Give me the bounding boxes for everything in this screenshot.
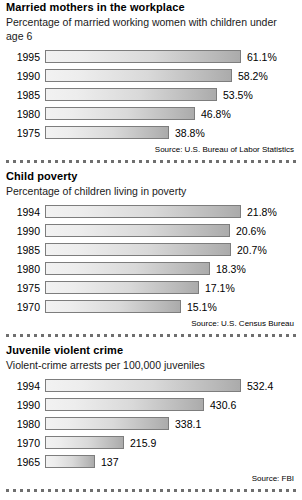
bar-value-label: 21.8% — [241, 205, 277, 219]
bar — [45, 69, 232, 82]
category-label: 1990 — [6, 398, 45, 412]
source-label: Source: U.S. Census Bureau — [6, 318, 296, 329]
source-label: Source: FBI — [6, 473, 296, 484]
category-label: 1970 — [6, 436, 45, 450]
bar-track: 38.8% — [45, 123, 296, 142]
bar-value-label: 61.1% — [241, 50, 277, 64]
bar-track: 20.7% — [45, 240, 296, 259]
bar-track: 215.9 — [45, 433, 296, 452]
bar — [45, 88, 217, 101]
section-child-poverty: Child poverty Percentage of children liv… — [6, 169, 296, 329]
bar-value-label: 18.3% — [210, 262, 246, 276]
category-label: 1980 — [6, 262, 45, 276]
bar — [45, 436, 124, 449]
bar-track: 17.1% — [45, 278, 296, 297]
chart-row: 197015.1% — [6, 297, 296, 316]
bar-track: 18.3% — [45, 259, 296, 278]
chart-row: 1994532.4 — [6, 376, 296, 395]
bar — [45, 379, 241, 392]
chart-row: 198046.8% — [6, 104, 296, 123]
bar-value-label: 338.1 — [169, 417, 201, 431]
infographic-page: Married mothers in the workplace Percent… — [0, 0, 302, 500]
chart-row: 1965137 — [6, 452, 296, 471]
chart-row: 199421.8% — [6, 202, 296, 221]
section-juvenile-crime: Juvenile violent crime Violent-crime arr… — [6, 343, 296, 484]
bar-track: 15.1% — [45, 297, 296, 316]
bar-value-label: 17.1% — [199, 281, 235, 295]
bottom-divider — [6, 489, 296, 492]
page-title: Child poverty — [6, 169, 296, 183]
bar — [45, 455, 95, 468]
chart-row: 1970215.9 — [6, 433, 296, 452]
category-label: 1975 — [6, 126, 45, 140]
bar — [45, 224, 230, 237]
bar — [45, 300, 181, 313]
bar-value-label: 20.7% — [231, 243, 267, 257]
bar — [45, 107, 195, 120]
category-label: 1980 — [6, 417, 45, 431]
bar-value-label: 53.5% — [217, 88, 253, 102]
bar — [45, 417, 169, 430]
chart-row: 198018.3% — [6, 259, 296, 278]
category-label: 1985 — [6, 243, 45, 257]
category-label: 1980 — [6, 107, 45, 121]
category-label: 1970 — [6, 300, 45, 314]
category-label: 1985 — [6, 88, 45, 102]
chart-row: 199561.1% — [6, 47, 296, 66]
category-label: 1990 — [6, 69, 45, 83]
bar-track: 20.6% — [45, 221, 296, 240]
bar-value-label: 46.8% — [195, 107, 231, 121]
bar — [45, 126, 169, 139]
section-married-mothers: Married mothers in the workplace Percent… — [6, 0, 296, 155]
bar-value-label: 38.8% — [169, 126, 205, 140]
category-label: 1965 — [6, 455, 45, 469]
bar-track: 338.1 — [45, 414, 296, 433]
section-subtitle: Percentage of married working women with… — [6, 15, 296, 43]
category-label: 1994 — [6, 205, 45, 219]
bar — [45, 398, 204, 411]
category-label: 1990 — [6, 224, 45, 238]
page-title: Juvenile violent crime — [6, 343, 296, 357]
category-label: 1975 — [6, 281, 45, 295]
chart-row: 198553.5% — [6, 85, 296, 104]
bar-track: 532.4 — [45, 376, 296, 395]
bar-value-label: 15.1% — [181, 300, 217, 314]
section-divider — [6, 160, 296, 163]
bar-value-label: 58.2% — [232, 69, 268, 83]
bar-track: 21.8% — [45, 202, 296, 221]
bar-track: 46.8% — [45, 104, 296, 123]
bar — [45, 243, 231, 256]
bar-value-label: 215.9 — [124, 436, 156, 450]
chart-row: 1990430.6 — [6, 395, 296, 414]
chart-row: 1980338.1 — [6, 414, 296, 433]
bar-value-label: 20.6% — [230, 224, 266, 238]
bar-track: 430.6 — [45, 395, 296, 414]
chart-row: 199020.6% — [6, 221, 296, 240]
bar-track: 53.5% — [45, 85, 296, 104]
chart-row: 199058.2% — [6, 66, 296, 85]
bar-track: 58.2% — [45, 66, 296, 85]
chart-row: 197517.1% — [6, 278, 296, 297]
category-label: 1995 — [6, 50, 45, 64]
chart-row: 198520.7% — [6, 240, 296, 259]
bar-value-label: 430.6 — [204, 398, 236, 412]
bar — [45, 262, 210, 275]
chart-row: 197538.8% — [6, 123, 296, 142]
bar-chart-juvenile-crime: 1994532.41990430.61980338.11970215.91965… — [6, 376, 296, 471]
section-subtitle: Percentage of children living in poverty — [6, 184, 296, 198]
bar-track: 61.1% — [45, 47, 296, 66]
bar-chart-married-mothers: 199561.1%199058.2%198553.5%198046.8%1975… — [6, 47, 296, 142]
bar-value-label: 137 — [95, 455, 119, 469]
category-label: 1994 — [6, 379, 45, 393]
bar-chart-child-poverty: 199421.8%199020.6%198520.7%198018.3%1975… — [6, 202, 296, 316]
bar-track: 137 — [45, 452, 296, 471]
source-label: Source: U.S. Bureau of Labor Statistics — [6, 144, 296, 155]
bar-value-label: 532.4 — [241, 379, 273, 393]
bar — [45, 281, 199, 294]
section-subtitle: Violent-crime arrests per 100,000 juveni… — [6, 358, 296, 372]
bar — [45, 205, 241, 218]
section-divider — [6, 334, 296, 337]
bar — [45, 50, 241, 63]
page-title: Married mothers in the workplace — [6, 0, 296, 14]
